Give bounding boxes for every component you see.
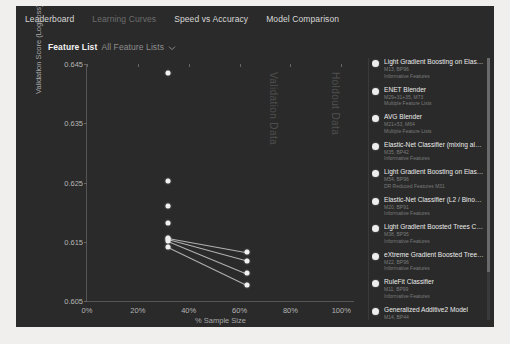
x-axis-tick-label: 100% <box>332 306 351 315</box>
tab-model-comparison[interactable]: Model Comparison <box>257 12 348 26</box>
legend-feature-list: DR Reduced Features M31 <box>384 183 484 190</box>
legend-text: ENET BlenderM29+31+35, M73Multiple Featu… <box>384 86 432 107</box>
y-axis-tick-label: 0.625 <box>64 178 83 187</box>
learning-curves-chart: Validation Score (LogLoss) % Sample Size… <box>38 58 368 320</box>
legend-model-name: ENET Blender <box>384 86 432 94</box>
legend-item[interactable]: Elastic-Net Classifier (mixing alpha=...… <box>372 141 484 169</box>
y-axis-tick-mark <box>84 123 87 124</box>
legend-item[interactable]: Generalized Additive2 ModelM14, BP44Info… <box>372 306 484 321</box>
legend-feature-list: Informative Features <box>384 155 484 162</box>
legend-color-dot-icon <box>372 170 379 177</box>
x-axis-label: % Sample Size <box>87 316 354 325</box>
feature-list-filter: Feature List All Feature Lists <box>48 42 176 52</box>
legend-color-dot-icon <box>372 143 379 150</box>
feature-list-value[interactable]: All Feature Lists <box>101 42 164 52</box>
legend-item[interactable]: Light Gradient Boosted Trees Classifi...… <box>372 223 484 251</box>
legend-scrollbar-thumb[interactable] <box>487 58 490 272</box>
legend-item[interactable]: ENET BlenderM29+31+35, M73Multiple Featu… <box>372 86 484 114</box>
legend-model-name: Light Gradient Boosting on ElasticNet... <box>384 168 484 176</box>
legend-feature-list: Multiple Feature Lists <box>384 128 432 135</box>
tab-bar: Leaderboard Learning Curves Speed vs Acc… <box>16 10 348 28</box>
legend-model-name: Light Gradient Boosted Trees Classifi... <box>384 223 484 231</box>
series-line <box>168 247 247 286</box>
legend-model-name: Generalized Additive2 Model <box>384 306 468 314</box>
chevron-down-icon[interactable] <box>168 44 176 52</box>
legend-divider <box>368 58 369 320</box>
app-root: Leaderboard Learning Curves Speed vs Acc… <box>0 0 510 344</box>
data-point[interactable] <box>166 221 171 226</box>
feature-list-label: Feature List <box>48 42 97 52</box>
x-axis-tick-label: 80% <box>283 306 298 315</box>
x-axis-tick-label: 0% <box>82 306 93 315</box>
x-axis-tick-mark <box>87 64 88 67</box>
y-axis-tick-mark <box>84 301 87 302</box>
legend-text: Generalized Additive2 ModelM14, BP44Info… <box>384 306 468 321</box>
legend-color-dot-icon <box>372 60 379 67</box>
legend-color-dot-icon <box>372 308 379 315</box>
legend-model-name: RuleFit Classifier <box>384 278 434 286</box>
x-axis-tick-mark <box>341 64 342 67</box>
y-axis-tick-mark <box>84 183 87 184</box>
y-axis-tick-label: 0.635 <box>64 119 83 128</box>
x-axis-tick-mark <box>189 64 190 67</box>
y-axis-tick-label: 0.645 <box>64 60 83 69</box>
legend-color-dot-icon <box>372 115 379 122</box>
legend-feature-list: Informative Features <box>384 293 434 300</box>
plot-watermark: Holdout Data <box>330 72 341 135</box>
legend-color-dot-icon <box>372 198 379 205</box>
x-axis-tick-mark <box>290 64 291 67</box>
learning-curves-panel: Leaderboard Learning Curves Speed vs Acc… <box>16 6 494 327</box>
y-axis-tick-label: 0.615 <box>64 237 83 246</box>
legend-model-name: AVG Blender <box>384 113 432 121</box>
legend-scrollbar-track[interactable] <box>487 58 490 320</box>
legend-text: RuleFit ClassifierM11, BP99Informative F… <box>384 278 434 299</box>
legend-color-dot-icon <box>372 253 379 260</box>
data-point[interactable] <box>245 283 250 288</box>
legend-item[interactable]: Light Gradient Boosting on ElasticNet...… <box>372 168 484 196</box>
x-axis-tick-label: 40% <box>181 306 196 315</box>
legend-feature-list: Multiple Feature Lists <box>384 100 432 107</box>
legend-text: Elastic-Net Classifier (L2 / Binomial...… <box>384 196 484 217</box>
tab-learning-curves[interactable]: Learning Curves <box>83 12 165 26</box>
data-point[interactable] <box>166 179 171 184</box>
y-axis-label: Validation Score (LogLoss) <box>34 6 43 94</box>
x-axis-tick-label: 20% <box>130 306 145 315</box>
data-point[interactable] <box>166 245 171 250</box>
legend-color-dot-icon <box>372 225 379 232</box>
legend-model-name: eXtreme Gradient Boosted Trees Classi... <box>384 251 484 259</box>
legend-item[interactable]: Elastic-Net Classifier (L2 / Binomial...… <box>372 196 484 224</box>
tab-leaderboard[interactable]: Leaderboard <box>16 12 83 26</box>
legend-feature-list: Informative Features <box>384 238 484 245</box>
x-axis-tick-mark <box>138 64 139 67</box>
model-legend[interactable]: Light Gradient Boosting on ElasticNet...… <box>372 58 490 320</box>
legend-text: Light Gradient Boosting on ElasticNet...… <box>384 58 484 79</box>
tab-speed-vs-accuracy[interactable]: Speed vs Accuracy <box>165 12 257 26</box>
legend-item[interactable]: eXtreme Gradient Boosted Trees Classi...… <box>372 251 484 279</box>
y-axis-tick-mark <box>84 242 87 243</box>
legend-item[interactable]: RuleFit ClassifierM11, BP99Informative F… <box>372 278 484 306</box>
data-point[interactable] <box>166 203 171 208</box>
legend-text: Light Gradient Boosted Trees Classifi...… <box>384 223 484 244</box>
data-point[interactable] <box>245 271 250 276</box>
plot-watermark: Validation Data <box>268 72 279 145</box>
legend-model-name: Light Gradient Boosting on ElasticNet... <box>384 58 484 66</box>
data-point[interactable] <box>166 238 171 243</box>
data-point[interactable] <box>166 71 171 76</box>
legend-text: Light Gradient Boosting on ElasticNet...… <box>384 168 484 189</box>
legend-text: Elastic-Net Classifier (mixing alpha=...… <box>384 141 484 162</box>
data-point[interactable] <box>245 250 250 255</box>
legend-text: AVG BlenderM21+53, M64Multiple Feature L… <box>384 113 432 134</box>
legend-feature-list: Informative Features <box>384 73 484 80</box>
plot-area[interactable]: % Sample Size 0.6450.6350.6250.6150.6050… <box>86 64 354 302</box>
legend-text: eXtreme Gradient Boosted Trees Classi...… <box>384 251 484 272</box>
legend-feature-list: Informative Features <box>384 210 484 217</box>
y-axis-tick-label: 0.605 <box>64 297 83 306</box>
data-point[interactable] <box>245 258 250 263</box>
x-axis-tick-label: 60% <box>232 306 247 315</box>
legend-model-name: Elastic-Net Classifier (L2 / Binomial... <box>384 196 484 204</box>
x-axis-tick-mark <box>240 64 241 67</box>
legend-model-name: Elastic-Net Classifier (mixing alpha=... <box>384 141 484 149</box>
legend-item[interactable]: Light Gradient Boosting on ElasticNet...… <box>372 58 484 86</box>
legend-feature-list: Informative Features <box>384 265 484 272</box>
legend-item[interactable]: AVG BlenderM21+53, M64Multiple Feature L… <box>372 113 484 141</box>
